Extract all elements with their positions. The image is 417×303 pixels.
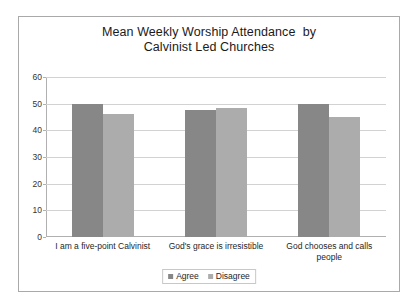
y-axis-tick-mark (43, 237, 46, 238)
x-axis-category-label: God chooses and calls people (273, 241, 386, 263)
y-axis-tick-label: 60 (33, 72, 42, 82)
y-axis-tick-label: 0 (37, 232, 42, 242)
y-axis-tick-label: 30 (33, 152, 42, 162)
chart-title-line-2: Calvinist Led Churches (144, 40, 275, 54)
bar-disagree[interactable] (216, 108, 247, 237)
x-axis-category-label: God's grace is irresistible (159, 241, 272, 252)
chart-title: Mean Weekly Worship Attendance byCalvini… (19, 25, 399, 54)
chart-title-line-1: Mean Weekly Worship Attendance by (102, 25, 316, 39)
bar-agree[interactable] (72, 104, 103, 237)
chart-legend: AgreeDisagree (162, 269, 256, 284)
legend-swatch-icon (208, 274, 213, 279)
legend-item[interactable]: Disagree (208, 271, 250, 281)
y-axis-tick-label: 50 (33, 99, 42, 109)
y-axis-tick-label: 40 (33, 125, 42, 135)
bar-group (46, 77, 159, 237)
y-axis-tick-label: 20 (33, 179, 42, 189)
legend-swatch-icon (168, 274, 173, 279)
legend-label: Agree (176, 271, 199, 281)
legend-item[interactable]: Agree (168, 271, 199, 281)
bar-disagree[interactable] (329, 117, 360, 237)
bar-agree[interactable] (298, 104, 329, 237)
bar-disagree[interactable] (103, 114, 134, 237)
bar-group (159, 77, 272, 237)
bar-group (273, 77, 386, 237)
y-axis-tick-label: 10 (33, 205, 42, 215)
x-axis-category-label: I am a five-point Calvinist (46, 241, 159, 252)
bar-agree[interactable] (185, 110, 216, 237)
plot-area: 0102030405060 (46, 77, 386, 237)
chart-container: Mean Weekly Worship Attendance byCalvini… (18, 16, 400, 292)
legend-label: Disagree (216, 271, 250, 281)
